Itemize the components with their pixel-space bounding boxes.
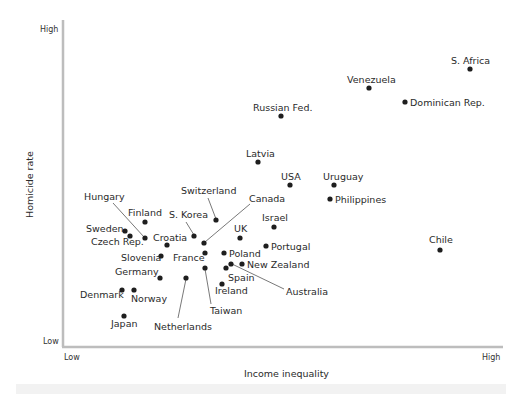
label-latvia: Latvia (246, 148, 275, 159)
label-australia: Australia (286, 286, 328, 297)
label-uruguay: Uruguay (323, 171, 364, 182)
label-new-zealand: New Zealand (247, 259, 309, 270)
label-venezuela: Venezuela (347, 74, 396, 85)
label-spain: Spain (228, 272, 255, 283)
label-switzerland: Switzerland (181, 185, 236, 196)
leader-taiwan (205, 269, 211, 304)
label-uk: UK (234, 223, 248, 234)
label-japan: Japan (110, 318, 138, 329)
point-croatia[interactable] (164, 242, 169, 247)
point-switzerland[interactable] (213, 217, 218, 222)
point-taiwan[interactable] (202, 265, 207, 270)
label-dominican-rep: Dominican Rep. (410, 97, 485, 108)
leader-switzerland (208, 198, 216, 219)
label-slovenia: Slovenia (121, 252, 161, 263)
label-sweden: Sweden (86, 223, 124, 234)
point-finland[interactable] (142, 219, 147, 224)
point-s-africa[interactable] (467, 66, 472, 71)
label-israel: Israel (262, 212, 288, 223)
label-hungary: Hungary (84, 191, 125, 202)
label-netherlands: Netherlands (154, 321, 212, 332)
y-axis-title: Homicide rate (24, 151, 35, 218)
label-denmark: Denmark (80, 289, 124, 300)
point-russian-fed[interactable] (278, 113, 283, 118)
label-ireland: Ireland (215, 285, 248, 296)
label-usa: USA (281, 171, 301, 182)
point-new-zealand[interactable] (239, 261, 244, 266)
label-canada: Canada (249, 193, 285, 204)
point-israel[interactable] (271, 224, 276, 229)
label-france: France (173, 252, 205, 263)
point-spain[interactable] (223, 265, 228, 270)
bottom-gray-band (16, 384, 506, 394)
point-canada[interactable] (201, 240, 206, 245)
leader-s-korea (186, 222, 194, 235)
point-portugal[interactable] (263, 243, 268, 248)
point-poland[interactable] (221, 250, 226, 255)
label-chile: Chile (429, 234, 453, 245)
point-chile[interactable] (437, 247, 442, 252)
point-s-korea[interactable] (191, 233, 196, 238)
point-usa[interactable] (287, 182, 292, 187)
point-uk[interactable] (237, 235, 242, 240)
scatter-chart: High Low Low High Income inequality Homi… (0, 0, 516, 394)
label-norway: Norway (131, 293, 167, 304)
label-poland: Poland (229, 248, 261, 259)
point-venezuela[interactable] (366, 85, 371, 90)
y-tick-high: High (40, 25, 58, 34)
x-axis-title: Income inequality (244, 368, 329, 379)
x-tick-high: High (482, 353, 500, 362)
point-norway[interactable] (131, 287, 136, 292)
label-s-korea: S. Korea (169, 209, 208, 220)
label-russian-fed: Russian Fed. (253, 102, 312, 113)
point-labels: S. Africa Venezuela Dominican Rep. Russi… (80, 55, 490, 332)
leader-netherlands (178, 279, 186, 318)
point-uruguay[interactable] (331, 182, 336, 187)
point-netherlands[interactable] (183, 275, 188, 280)
point-australia[interactable] (228, 261, 233, 266)
label-germany: Germany (115, 266, 159, 277)
point-philippines[interactable] (327, 196, 332, 201)
label-czech-rep: Czech Rep. (91, 236, 144, 247)
y-tick-low: Low (43, 337, 59, 346)
label-philippines: Philippines (335, 194, 386, 205)
point-dominican-rep[interactable] (402, 99, 407, 104)
label-taiwan: Taiwan (209, 305, 242, 316)
label-croatia: Croatia (153, 232, 187, 243)
x-tick-low: Low (64, 353, 80, 362)
label-finland: Finland (128, 207, 162, 218)
point-latvia[interactable] (255, 159, 260, 164)
label-s-africa: S. Africa (451, 55, 490, 66)
label-portugal: Portugal (271, 241, 310, 252)
